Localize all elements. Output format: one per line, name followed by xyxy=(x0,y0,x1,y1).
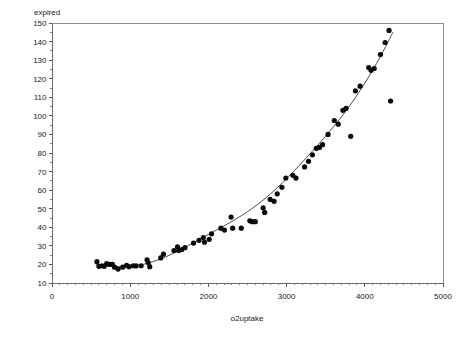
data-point xyxy=(275,191,280,196)
data-point xyxy=(161,252,166,257)
y-tick-label: 150 xyxy=(33,19,47,28)
data-points xyxy=(94,28,393,272)
data-point xyxy=(320,142,325,147)
x-axis-label: o2uptake xyxy=(231,314,264,323)
data-point xyxy=(262,210,267,215)
y-tick-label: 40 xyxy=(38,223,47,232)
plot-frame xyxy=(52,23,443,283)
data-point xyxy=(222,227,227,232)
data-point xyxy=(388,98,393,103)
data-point xyxy=(283,175,288,180)
data-point xyxy=(115,266,120,271)
y-tick-label: 60 xyxy=(38,186,47,195)
data-point xyxy=(332,118,337,123)
y-tick-label: 120 xyxy=(33,75,47,84)
x-tick-label: 4000 xyxy=(356,292,374,301)
data-point xyxy=(302,164,307,169)
x-tick-label: 0 xyxy=(50,292,55,301)
data-point xyxy=(147,264,152,269)
data-point xyxy=(293,175,298,180)
scatter-chart: 102030405060708090100110120130140150 010… xyxy=(0,0,464,337)
data-point xyxy=(348,134,353,139)
y-tick-label: 100 xyxy=(33,112,47,121)
y-axis: 102030405060708090100110120130140150 xyxy=(33,19,52,288)
data-point xyxy=(279,185,284,190)
data-point xyxy=(191,240,196,245)
data-point xyxy=(139,263,144,268)
data-point xyxy=(209,231,214,236)
data-point xyxy=(325,132,330,137)
y-tick-label: 50 xyxy=(38,205,47,214)
data-point xyxy=(230,226,235,231)
data-point xyxy=(310,152,315,157)
data-point xyxy=(306,159,311,164)
data-point xyxy=(386,28,391,33)
chart-page: 102030405060708090100110120130140150 010… xyxy=(0,0,464,337)
data-point xyxy=(253,219,258,224)
data-point xyxy=(271,199,276,204)
data-point xyxy=(336,122,341,127)
data-point xyxy=(358,84,363,89)
x-tick-label: 5000 xyxy=(434,292,452,301)
y-tick-label: 90 xyxy=(38,130,47,139)
data-point xyxy=(353,88,358,93)
x-tick-label: 1000 xyxy=(121,292,139,301)
data-point xyxy=(228,214,233,219)
y-tick-label: 30 xyxy=(38,242,47,251)
y-tick-label: 80 xyxy=(38,149,47,158)
x-axis: 010002000300040005000 xyxy=(50,283,453,301)
y-tick-label: 20 xyxy=(38,260,47,269)
data-point xyxy=(182,245,187,250)
data-point xyxy=(261,205,266,210)
y-tick-label: 140 xyxy=(33,38,47,47)
data-point xyxy=(343,106,348,111)
data-point xyxy=(196,238,201,243)
data-point xyxy=(126,264,131,269)
x-tick-label: 2000 xyxy=(200,292,218,301)
data-point xyxy=(378,52,383,57)
data-point xyxy=(201,235,206,240)
y-tick-label: 130 xyxy=(33,56,47,65)
y-tick-label: 110 xyxy=(34,93,47,102)
data-point xyxy=(239,226,244,231)
data-point xyxy=(133,263,138,268)
y-tick-label: 70 xyxy=(38,168,47,177)
data-point xyxy=(202,240,207,245)
data-point xyxy=(383,40,388,45)
data-point xyxy=(207,237,212,242)
fit-curve xyxy=(96,32,393,267)
x-tick-label: 3000 xyxy=(278,292,296,301)
y-tick-label: 10 xyxy=(38,279,47,288)
data-point xyxy=(372,66,377,71)
y-axis-label: expired xyxy=(34,8,60,17)
data-point xyxy=(94,259,99,264)
